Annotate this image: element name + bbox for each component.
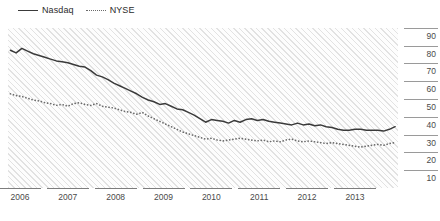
chart-legend: Nasdaq NYSE <box>18 6 135 15</box>
x-axis-tick-rule <box>334 188 376 189</box>
x-axis-tick-label: 2007 <box>48 193 88 202</box>
y-axis-tick-rule <box>404 46 438 47</box>
legend-label-nyse: NYSE <box>110 6 135 15</box>
x-axis-tick-rule <box>190 188 232 189</box>
y-axis: 908070605040302010 <box>398 22 440 192</box>
y-axis-tick-label: 70 <box>406 67 436 76</box>
legend-label-nasdaq: Nasdaq <box>42 6 74 15</box>
x-axis-tick-label: 2006 <box>0 193 40 202</box>
x-axis-tick-rule <box>238 188 280 189</box>
legend-dotted-line-icon <box>86 10 106 11</box>
plot-area <box>8 28 398 188</box>
x-axis-tick-rule <box>143 188 185 189</box>
x-axis-tick-label: 2009 <box>144 193 184 202</box>
series-path-nasdaq <box>10 48 395 131</box>
y-axis-tick-rule <box>404 81 438 82</box>
x-axis-tick-label: 2011 <box>239 193 279 202</box>
y-axis-tick-rule <box>404 63 438 64</box>
y-axis-tick-label: 10 <box>406 174 436 183</box>
y-axis-tick-rule <box>404 28 438 29</box>
legend-item-nyse: NYSE <box>86 6 135 15</box>
y-axis-tick-rule <box>404 170 438 171</box>
y-axis-tick-label: 30 <box>406 139 436 148</box>
x-axis-tick-rule <box>0 188 41 189</box>
y-axis-tick-rule <box>404 135 438 136</box>
y-axis-tick-label: 50 <box>406 103 436 112</box>
y-axis-tick-label: 60 <box>406 85 436 94</box>
y-axis-tick-rule <box>404 152 438 153</box>
x-axis-tick-label: 2012 <box>287 193 327 202</box>
series-lines <box>8 28 398 188</box>
x-axis-tick-rule <box>286 188 328 189</box>
x-axis: 20062007200820092010201120122013 <box>8 188 398 212</box>
x-axis-tick-label: 2013 <box>335 193 375 202</box>
y-axis-tick-label: 90 <box>406 32 436 41</box>
x-axis-tick-rule <box>95 188 137 189</box>
y-axis-tick-label: 20 <box>406 156 436 165</box>
y-axis-tick-rule <box>404 99 438 100</box>
x-axis-tick-label: 2010 <box>191 193 231 202</box>
x-axis-tick-rule <box>47 188 89 189</box>
x-axis-tick-label: 2008 <box>96 193 136 202</box>
y-axis-tick-rule <box>404 117 438 118</box>
legend-solid-line-icon <box>18 10 38 11</box>
y-axis-tick-label: 80 <box>406 50 436 59</box>
legend-item-nasdaq: Nasdaq <box>18 6 74 15</box>
stock-exchange-line-chart: Nasdaq NYSE 908070605040302010 200620072… <box>0 0 440 221</box>
y-axis-tick-label: 40 <box>406 121 436 130</box>
